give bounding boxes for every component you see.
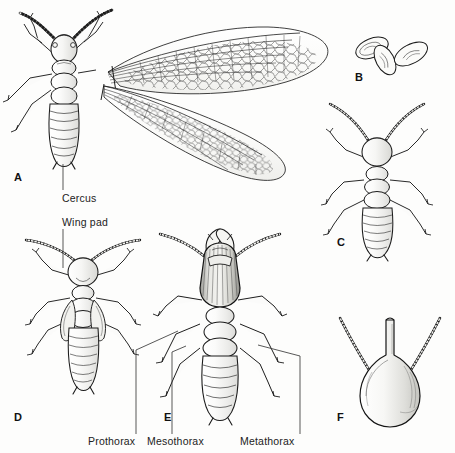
- panel-letter-d: D: [14, 412, 22, 423]
- soldier-head: [200, 243, 240, 307]
- metathorax-leader: [258, 345, 300, 434]
- panel-a-alate: [3, 10, 328, 180]
- mesothorax-leader: [172, 346, 186, 434]
- panel-b-eggs: [353, 33, 432, 79]
- label-mesothorax: Mesothorax: [147, 436, 204, 447]
- panel-d-nymph: [25, 240, 141, 394]
- panel-letter-e: E: [164, 412, 171, 423]
- alate-head: [51, 35, 77, 64]
- figure-plate: A B C D E F Cercus Wing pad Prothorax Me…: [0, 0, 455, 453]
- label-wing-pad: Wing pad: [62, 217, 108, 228]
- panel-letter-a: A: [14, 172, 22, 183]
- alate-abdomen: [49, 104, 79, 169]
- label-prothorax: Prothorax: [88, 436, 135, 447]
- panel-f-nasute-head: [340, 318, 440, 427]
- forewing: [108, 27, 328, 94]
- panel-e-soldier: [153, 229, 287, 425]
- label-cercus: Cercus: [62, 193, 96, 204]
- label-metathorax: Metathorax: [240, 436, 295, 447]
- panel-letter-f: F: [337, 412, 344, 423]
- hindwing: [101, 84, 285, 180]
- panel-letter-c: C: [337, 237, 345, 248]
- alate-thorax: [51, 60, 77, 105]
- panel-letter-b: B: [355, 72, 363, 83]
